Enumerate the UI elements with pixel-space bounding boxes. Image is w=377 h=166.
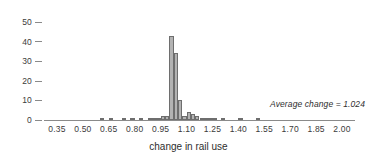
histogram-bar	[256, 118, 260, 120]
x-axis-tick-label: 1.10	[178, 124, 195, 134]
y-axis-tick: 50	[22, 17, 42, 27]
y-axis-tick-mark	[35, 81, 42, 82]
y-axis-tick-label: 10	[22, 95, 32, 105]
y-axis-tick-label: 0	[27, 115, 32, 125]
histogram-bar	[109, 118, 113, 120]
histogram-bar	[238, 118, 242, 120]
y-axis-tick-mark	[35, 100, 42, 101]
x-axis-tick-label: 1.40	[230, 124, 247, 134]
x-axis-tick-label: 0.80	[126, 124, 143, 134]
x-axis-tick-label: 1.85	[307, 124, 324, 134]
histogram-bar	[212, 118, 216, 120]
y-axis-tick-label: 40	[22, 37, 32, 47]
histogram-chart: 01020304050 Average change = 1.024 chang…	[0, 0, 377, 166]
y-axis-tick-mark	[35, 61, 42, 62]
histogram-bar	[100, 118, 104, 120]
y-axis-tick-label: 30	[22, 56, 32, 66]
histogram-bar	[139, 118, 143, 120]
x-axis-tick-label: 1.55	[256, 124, 273, 134]
x-axis-tick-label: 1.25	[204, 124, 221, 134]
x-axis-tick-label: 2.00	[333, 124, 350, 134]
y-axis-tick: 10	[22, 95, 42, 105]
x-axis-tick-label: 0.65	[100, 124, 117, 134]
x-axis-tick-label: 0.50	[74, 124, 91, 134]
x-axis-tick-label: 0.95	[152, 124, 169, 134]
x-axis-label: change in rail use	[0, 141, 377, 152]
x-axis-line	[44, 120, 355, 121]
y-axis-tick: 40	[22, 37, 42, 47]
y-axis-tick-mark	[35, 22, 42, 23]
y-axis-tick-mark	[35, 41, 42, 42]
y-axis-tick: 20	[22, 76, 42, 86]
y-axis-tick-label: 20	[22, 76, 32, 86]
x-axis-tick-label: 1.70	[282, 124, 299, 134]
y-axis-tick: 30	[22, 56, 42, 66]
x-axis-tick-label: 0.35	[48, 124, 65, 134]
histogram-bar	[221, 118, 225, 120]
y-axis-tick-label: 50	[22, 17, 32, 27]
average-change-annotation: Average change = 1.024	[270, 99, 365, 109]
histogram-bar	[130, 118, 134, 120]
y-axis-tick: 0	[27, 115, 42, 125]
histogram-bar	[122, 118, 126, 120]
y-axis-tick-mark	[35, 120, 42, 121]
